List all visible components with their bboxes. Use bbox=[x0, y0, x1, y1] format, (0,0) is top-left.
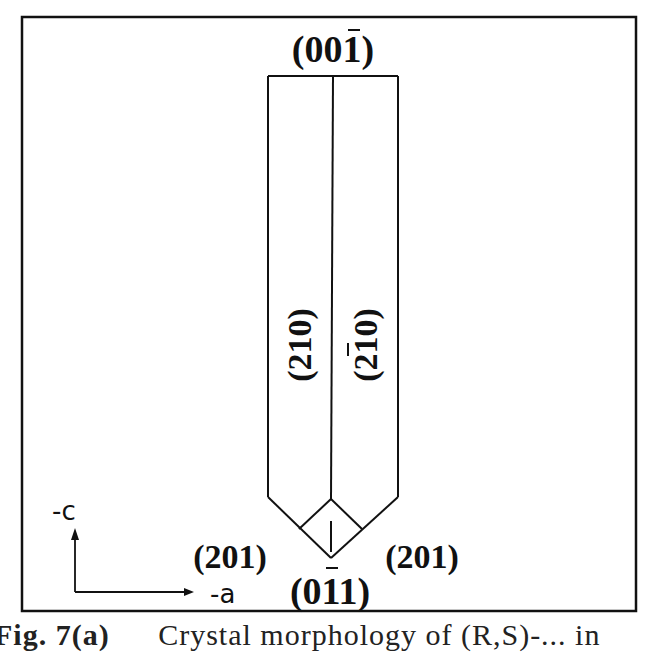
figure-number: Fig. 7(a) bbox=[0, 618, 110, 651]
right-cap-face-label: (201) bbox=[385, 538, 459, 576]
caption-text: Crystal morphology of (R,S)-... in bbox=[158, 618, 600, 651]
left-prism-face-label: (210) bbox=[281, 308, 319, 382]
top-face-label: (001) bbox=[292, 28, 374, 71]
left-cap-face-label: (201) bbox=[193, 538, 267, 576]
axis-c-label: -c bbox=[52, 496, 76, 526]
right-prism-face-label: (210) bbox=[347, 308, 385, 382]
axis-indicator bbox=[71, 528, 194, 596]
figure-caption: Fig. 7(a) Crystal morphology of (R,S)-..… bbox=[0, 618, 648, 652]
figure-frame bbox=[22, 17, 636, 611]
bottom-face-label: (011) bbox=[290, 570, 370, 613]
axis-a-label: -a bbox=[210, 579, 235, 609]
